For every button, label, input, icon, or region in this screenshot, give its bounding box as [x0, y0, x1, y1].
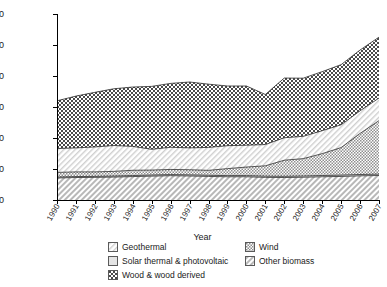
geothermal-swatch: [108, 242, 118, 252]
x-tick-label: 1993: [103, 203, 119, 222]
x-tick-label: 2004: [311, 203, 327, 222]
legend-item[interactable]: Wood & wood derived: [108, 270, 245, 280]
legend-item-label: Wind: [259, 243, 278, 252]
x-tick-label: 2003: [292, 203, 308, 222]
legend-item[interactable]: Wind: [245, 242, 376, 252]
x-axis-line: [57, 200, 380, 201]
legend-item[interactable]: Geothermal: [108, 242, 245, 252]
legend-item-label: Geothermal: [122, 243, 166, 252]
stacked-area-svg: [57, 14, 379, 200]
x-tick-label: 1998: [197, 203, 213, 222]
y-tick-label: 100,000: [0, 41, 4, 50]
x-tick-label: 1990: [46, 203, 62, 222]
solar-swatch: [108, 256, 118, 266]
x-tick-label: 1999: [216, 203, 232, 222]
x-tick-label: 2002: [273, 203, 289, 222]
other-biomass-swatch: [245, 256, 255, 266]
wind-swatch: [245, 242, 255, 252]
area-series-other-biomass: [57, 176, 379, 200]
x-tick-label: 1996: [160, 203, 176, 222]
y-tick-label: 40,000: [0, 134, 4, 143]
chart-legend: GeothermalWindSolar thermal & photovolta…: [108, 240, 376, 282]
legend-item-label: Solar thermal & photovoltaic: [122, 257, 228, 266]
x-tick-label: 2005: [330, 203, 346, 222]
legend-item-label: Wood & wood derived: [122, 271, 205, 280]
x-tick-label: 2006: [349, 203, 365, 222]
plot-area: [57, 14, 379, 200]
x-tick-label: 1994: [122, 203, 138, 222]
x-tick-label: 2007: [368, 203, 384, 222]
x-tick-label: 2001: [254, 203, 270, 222]
x-tick-label: 1992: [84, 203, 100, 222]
x-tick-label: 1991: [65, 203, 81, 222]
x-tick-label: 1995: [141, 203, 157, 222]
y-tick-label: 120,000: [0, 10, 4, 19]
wood-swatch: [108, 270, 118, 280]
y-tick-label: 20,000: [0, 165, 4, 174]
y-tick-label: 0: [0, 196, 4, 205]
renewable-energy-area-chart: Millions of kWh 120,000100,00080,00060,0…: [0, 0, 387, 287]
legend-item-label: Other biomass: [259, 257, 314, 266]
y-axis-line: [57, 14, 58, 201]
x-tick-label: 2000: [235, 203, 251, 222]
legend-item[interactable]: Other biomass: [245, 256, 376, 266]
y-tick-label: 60,000: [0, 103, 4, 112]
legend-item[interactable]: Solar thermal & photovoltaic: [108, 256, 245, 266]
x-tick-label: 1997: [178, 203, 194, 222]
y-tick-label: 80,000: [0, 72, 4, 81]
